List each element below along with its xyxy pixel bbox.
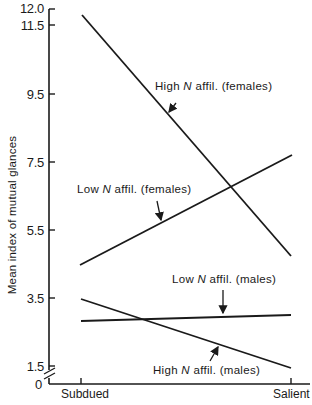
label-high-n-females: High N affil. (females) — [155, 80, 272, 92]
y-tick-label: 12.0 — [4, 2, 44, 15]
label-low-n-females: Low N affil. (females) — [77, 183, 191, 195]
y-tick-label: 9.5 — [4, 88, 44, 101]
y-axis-title: Mean index of mutual glances — [6, 136, 18, 294]
label-low-n-males: Low N affil. (males) — [172, 273, 276, 285]
y-tick-label: 1.5 — [4, 360, 44, 373]
chart-canvas — [0, 0, 312, 405]
y-ticks — [49, 9, 55, 366]
series-line-high-n-males — [81, 299, 291, 368]
y-tick-label: 11.5 — [4, 19, 44, 32]
arrow-high-n-males — [210, 347, 218, 361]
series-line-high-n-females — [82, 15, 291, 256]
label-high-n-males: High N affil. (males) — [153, 364, 260, 376]
series-line-low-n-males — [81, 315, 291, 321]
arrow-low-n-females — [157, 201, 161, 220]
x-tick-label-subdued: Subdued — [61, 387, 109, 401]
x-tick-label-salient: Salient — [273, 387, 310, 401]
series-line-low-n-females — [80, 155, 292, 265]
y-tick-label-origin: 0 — [2, 378, 42, 391]
arrow-high-n-females — [169, 103, 176, 112]
